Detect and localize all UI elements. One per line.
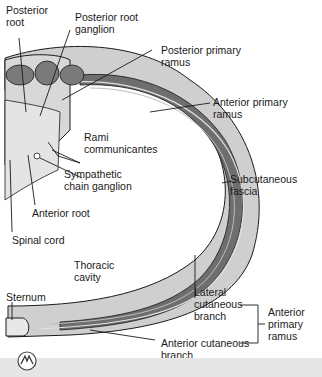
label-thoracic-cavity: Thoracic cavity xyxy=(74,259,114,283)
label-line: fascia xyxy=(230,185,297,197)
label-line: primary xyxy=(268,318,305,330)
label-line: branch xyxy=(194,310,242,322)
label-subcutaneous-fascia: Subcutaneous fascia xyxy=(230,173,297,197)
label-line: cutaneous xyxy=(194,298,242,310)
label-line: Thoracic xyxy=(74,259,114,271)
footer-bar xyxy=(0,358,322,377)
label-line: communicantes xyxy=(84,143,158,155)
label-sympathetic-chain-ganglion: Sympathetic chain ganglion xyxy=(64,168,132,192)
label-line: Spinal cord xyxy=(12,234,65,246)
label-line: ramus xyxy=(161,56,241,68)
spinal-cord-shape xyxy=(6,65,34,85)
sternum-shape xyxy=(6,318,29,336)
label-line: Anterior primary xyxy=(213,96,288,108)
label-line: Anterior root xyxy=(32,207,90,219)
label-line: cavity xyxy=(74,271,114,283)
label-line: chain ganglion xyxy=(64,180,132,192)
label-lateral-cutaneous-branch: Lateral cutaneous branch xyxy=(194,286,242,322)
label-sternum: Sternum xyxy=(6,291,46,303)
label-line: Lateral xyxy=(194,286,242,298)
label-line: Sympathetic xyxy=(64,168,132,180)
label-spinal-cord: Spinal cord xyxy=(12,234,65,246)
label-anterior-primary-ramus-bracket: Anterior primary ramus xyxy=(268,306,305,342)
label-line: Posterior root xyxy=(75,11,138,23)
label-anterior-primary-ramus: Anterior primary ramus xyxy=(213,96,288,120)
label-line: Anterior cutaneous xyxy=(161,337,249,349)
label-line: ramus xyxy=(213,108,288,120)
label-line: ganglion xyxy=(75,23,138,35)
label-line: Sternum xyxy=(6,291,46,303)
label-posterior-primary-ramus: Posterior primary ramus xyxy=(161,44,241,68)
label-line: Posterior xyxy=(6,4,48,16)
label-line: root xyxy=(6,16,48,28)
label-rami-communicantes: Rami communicantes xyxy=(84,131,158,155)
label-posterior-root-ganglion: Posterior root ganglion xyxy=(75,11,138,35)
label-line: ramus xyxy=(268,330,305,342)
label-line: Anterior xyxy=(268,306,305,318)
label-anterior-root: Anterior root xyxy=(32,207,90,219)
label-line: Subcutaneous xyxy=(230,173,297,185)
label-line: Rami xyxy=(84,131,158,143)
publisher-logo-icon xyxy=(16,350,38,372)
label-line: Posterior primary xyxy=(161,44,241,56)
label-posterior-root: Posterior root xyxy=(6,4,48,28)
sympathetic-chain-ganglion-shape xyxy=(34,153,40,159)
